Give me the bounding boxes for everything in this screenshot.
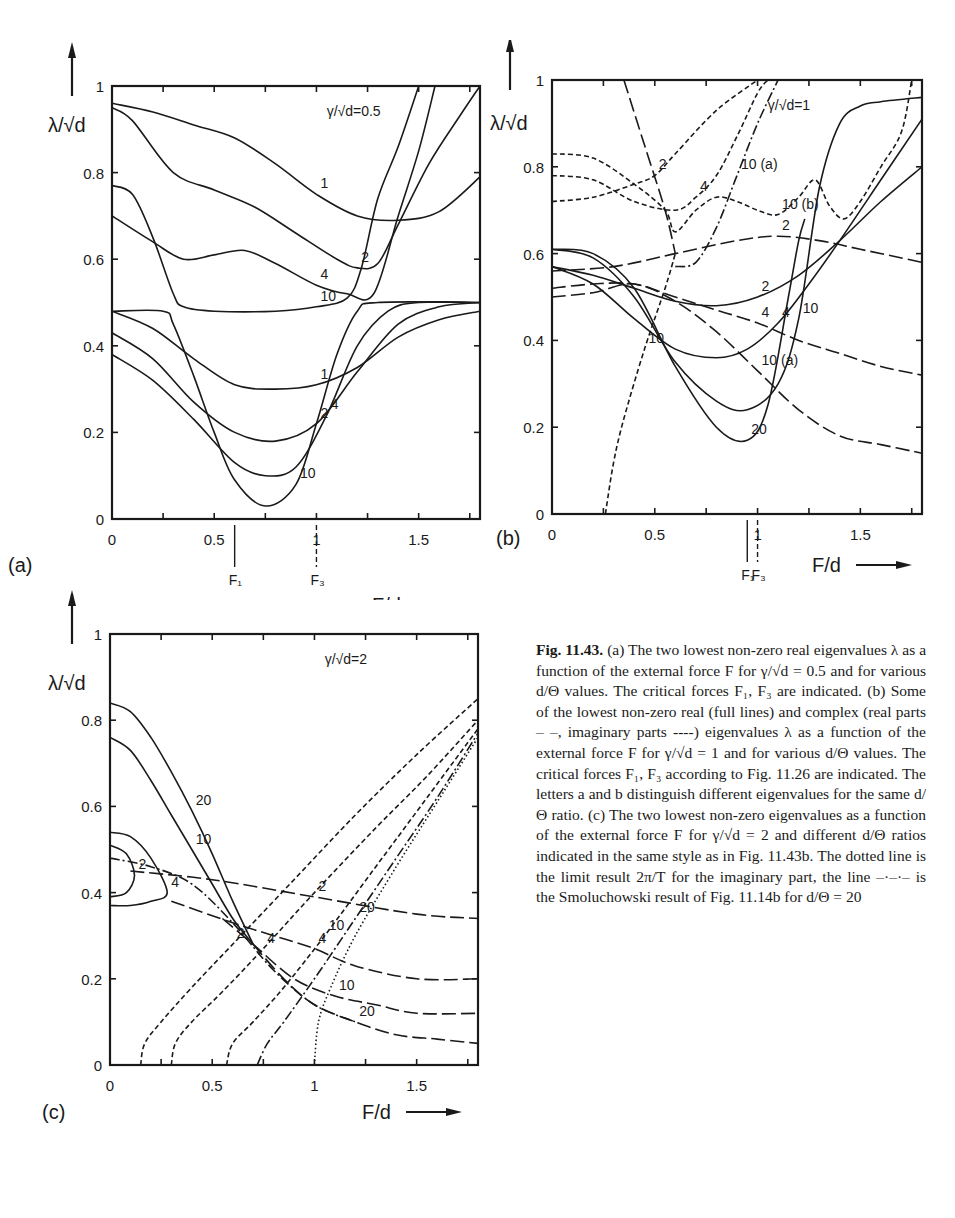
series-label: 4 [320, 266, 328, 282]
series-label: 4 [318, 930, 326, 946]
series-label: 4 [171, 874, 179, 890]
series-label: 4 [762, 304, 770, 320]
chart-title: γ/√d=2 [325, 651, 368, 667]
y-tick-label: 0.4 [83, 338, 104, 355]
series-label: 10 [329, 917, 345, 933]
critical-force-label: F₁ [229, 572, 243, 588]
series-label: 10 [320, 288, 336, 304]
series-label: 2 [659, 156, 667, 172]
series-line [141, 699, 478, 1065]
x-axis-label: F/d [362, 1101, 391, 1123]
series-line [227, 729, 479, 1065]
y-tick-label: 0.8 [523, 159, 544, 176]
series-line [552, 167, 922, 306]
caption-text-b: (b) Some of the lowest non-zero real (fu… [536, 682, 926, 823]
series-label: 20 [196, 792, 212, 808]
series-label: 4 [700, 178, 708, 194]
series-group [112, 86, 480, 506]
series-line [552, 283, 922, 375]
series-label: 2 [762, 278, 770, 294]
series-label: 2 [361, 249, 369, 265]
x-axis-arrowhead [896, 561, 912, 569]
series-line [675, 80, 778, 267]
series-label: 10 [196, 831, 212, 847]
y-axis-arrowhead [506, 40, 514, 52]
x-tick-label: 1.5 [408, 531, 429, 548]
series-line [112, 302, 480, 506]
plot-frame [110, 634, 478, 1065]
y-tick-label: 0.2 [83, 424, 104, 441]
series-line [253, 944, 478, 1043]
x-tick-label: 0.5 [202, 1077, 223, 1094]
y-axis-label: λ/√d [48, 114, 86, 136]
series-label: 2 [320, 405, 328, 421]
series-group [110, 699, 478, 1065]
x-tick-label: 0.5 [204, 531, 225, 548]
series-line [110, 703, 253, 944]
series-line [112, 86, 480, 269]
series-label: 10 (a) [741, 156, 778, 172]
series-label: 2 [237, 925, 245, 941]
series-label: 2 [139, 856, 147, 872]
series-line [112, 103, 480, 220]
panel-label: (a) [8, 554, 32, 576]
y-axis-label: λ/√d [48, 672, 86, 694]
series-line [552, 284, 922, 453]
series-label: 2 [318, 878, 326, 894]
series-line [112, 86, 419, 312]
y-tick-label: 0.6 [81, 798, 102, 815]
series-label: 10 (a) [762, 352, 799, 368]
critical-force-label: F₃ [752, 567, 766, 583]
series-label: 20 [751, 421, 767, 437]
chart-title: γ/√d=0.5 [327, 103, 381, 119]
y-tick-label: 0.6 [83, 251, 104, 268]
y-tick-label: 0.8 [81, 712, 102, 729]
series-label: 10 [300, 465, 316, 481]
x-tick-label: 1.5 [406, 1077, 427, 1094]
series-label: 1 [320, 366, 328, 382]
panel-a-chart: 00.511.500.20.40.60.81λ/√dF/d(a)γ/√d=0.5… [0, 40, 490, 600]
series-line [552, 119, 922, 358]
y-axis-arrowhead [68, 42, 76, 58]
series-line [112, 311, 480, 389]
series-label: 10 [649, 330, 665, 346]
y-tick-label: 1 [94, 626, 102, 643]
series-line [552, 219, 805, 442]
x-tick-label: 0 [548, 526, 556, 543]
series-line [552, 80, 912, 232]
y-tick-label: 1 [96, 78, 104, 95]
series-line [552, 97, 922, 410]
series-line [552, 236, 922, 271]
y-tick-label: 0 [536, 506, 544, 523]
series-line [552, 80, 758, 202]
y-tick-label: 0.6 [523, 246, 544, 263]
series-label: 20 [359, 1003, 375, 1019]
series-line [624, 80, 675, 254]
y-axis-label: λ/√d [490, 112, 528, 134]
y-tick-label: 0.2 [523, 419, 544, 436]
caption-text-c: (c) The two lowest non-zero eigenvalues … [536, 806, 926, 905]
y-tick-label: 1 [536, 72, 544, 89]
figure-caption: Fig. 11.43. (a) The two lowest non-zero … [536, 640, 926, 908]
panel-c-chart: 00.511.500.20.40.60.81λ/√dF/d(c)γ/√d=220… [0, 590, 490, 1130]
x-axis-arrowhead [446, 1108, 462, 1116]
series-label: 1 [320, 175, 328, 191]
y-axis-arrowhead [68, 590, 76, 606]
critical-force-label: F₃ [310, 572, 324, 588]
chart-title: γ/√d=1 [768, 97, 811, 113]
series-label: 10 [339, 977, 355, 993]
y-tick-label: 0 [94, 1057, 102, 1074]
series-group [552, 80, 922, 514]
y-tick-label: 0.2 [81, 971, 102, 988]
y-tick-label: 0.8 [83, 165, 104, 182]
plot-frame [552, 80, 922, 514]
series-label: 2 [782, 217, 790, 233]
x-tick-label: 0 [106, 1077, 114, 1094]
y-tick-label: 0.4 [523, 332, 544, 349]
series-line [222, 919, 478, 1014]
series-label: 4 [782, 304, 790, 320]
x-axis-label: F/d [812, 554, 841, 576]
y-tick-label: 0 [96, 511, 104, 528]
series-label: 4 [331, 396, 339, 412]
x-tick-label: 1.5 [850, 526, 871, 543]
